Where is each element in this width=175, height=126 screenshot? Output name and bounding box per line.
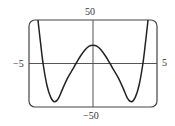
chart-svg bbox=[0, 0, 175, 126]
y-max-label: 50 bbox=[85, 7, 95, 17]
x-min-label: −5 bbox=[13, 59, 24, 69]
x-max-label: 5 bbox=[162, 58, 167, 68]
y-min-label: −50 bbox=[83, 111, 99, 121]
